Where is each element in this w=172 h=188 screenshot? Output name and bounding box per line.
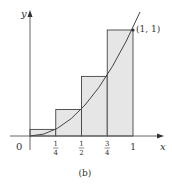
tick-numerator: 1 xyxy=(54,140,58,148)
origin-label: 0 xyxy=(16,141,22,152)
x-axis-arrow-icon xyxy=(157,134,164,139)
tick-1-2: 1 2 xyxy=(79,140,85,157)
tick-numerator: 3 xyxy=(105,140,109,148)
tick-denominator: 4 xyxy=(105,149,110,157)
figure-caption: (b) xyxy=(79,168,92,178)
tick-1-4: 1 4 xyxy=(53,140,59,157)
point-marker xyxy=(131,28,134,31)
riemann-rectangles xyxy=(30,30,133,136)
rectangle-3 xyxy=(82,76,108,136)
tick-denominator: 2 xyxy=(79,149,83,157)
point-label: (1, 1) xyxy=(136,24,160,34)
rectangle-2 xyxy=(56,110,82,137)
rectangle-1 xyxy=(30,129,56,136)
tick-1: 1 xyxy=(130,142,136,152)
y-axis-arrow-icon xyxy=(28,10,33,17)
tick-numerator: 1 xyxy=(79,140,83,148)
rectangle-4 xyxy=(107,30,133,136)
tick-3-4: 3 4 xyxy=(105,140,111,157)
riemann-sum-diagram: y x 0 (1, 1) 1 4 1 2 3 4 1 (b) xyxy=(0,0,172,188)
x-axis-label: x xyxy=(160,141,166,152)
tick-denominator: 4 xyxy=(54,149,59,157)
y-axis-label: y xyxy=(20,8,27,19)
